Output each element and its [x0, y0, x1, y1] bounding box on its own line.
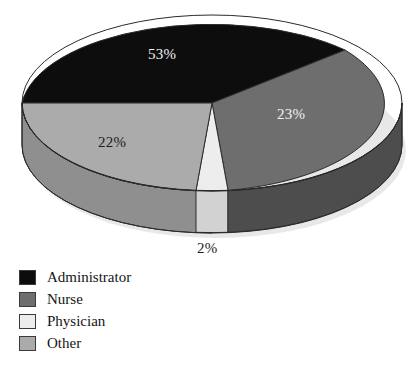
legend-swatch-physician	[19, 314, 36, 329]
legend-item-nurse[interactable]: Nurse	[19, 288, 279, 310]
legend-label-administrator: Administrator	[47, 270, 131, 285]
legend-swatch-administrator	[19, 270, 36, 285]
legend-item-administrator[interactable]: Administrator	[19, 266, 279, 288]
legend-label-nurse: Nurse	[47, 292, 83, 307]
legend-swatch-other	[19, 336, 36, 351]
legend-item-other[interactable]: Other	[19, 332, 279, 354]
legend-label-physician: Physician	[47, 314, 105, 329]
side-wall-physician	[196, 190, 228, 232]
pie-chart: 53% 23% 22% 2%	[0, 0, 419, 272]
chart-legend: Administrator Nurse Physician Other	[19, 266, 279, 354]
pie-chart-svg	[0, 0, 419, 272]
legend-swatch-nurse	[19, 292, 36, 307]
legend-item-physician[interactable]: Physician	[19, 310, 279, 332]
legend-label-other: Other	[47, 336, 81, 351]
